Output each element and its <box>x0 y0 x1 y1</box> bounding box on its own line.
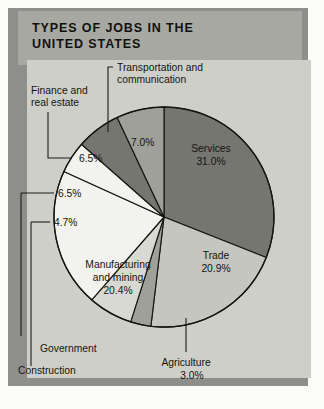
label-services: Services <box>191 143 230 154</box>
percent-trade: 20.9% <box>201 263 230 274</box>
label-transportation-line-1: Transportation and <box>117 62 203 73</box>
label-manufacturing-line-1: Manufacturing <box>85 259 151 270</box>
percent-manufacturing-and-mining: 20.4% <box>103 285 132 296</box>
percent-transportation: 7.0% <box>131 137 154 148</box>
percent-government: 6.5% <box>58 188 81 199</box>
label-government: Government <box>40 343 97 354</box>
leader-line-finance <box>48 112 72 158</box>
label-agriculture: Agriculture <box>161 357 210 368</box>
label-finance-line-2: real estate <box>31 97 79 108</box>
label-trade: Trade <box>203 250 230 261</box>
percent-services: 31.0% <box>196 156 225 167</box>
pie-chart: Services 31.0% Trade 20.9% Manufacturing… <box>0 0 324 409</box>
label-manufacturing-line-2: and mining <box>93 272 144 283</box>
percent-agriculture: 3.0% <box>180 370 203 381</box>
percent-construction: 4.7% <box>54 217 77 228</box>
percent-finance: 6.5% <box>79 153 102 164</box>
label-finance-line-1: Finance and <box>31 85 88 96</box>
callout-finance: Finance and real estate 6.5% <box>31 85 102 164</box>
label-transportation-line-2: communication <box>117 74 187 85</box>
figure-container: TYPES OF JOBS IN THE UNITED STATES <box>0 0 324 409</box>
label-construction: Construction <box>18 365 76 376</box>
pie-slices <box>54 107 274 327</box>
